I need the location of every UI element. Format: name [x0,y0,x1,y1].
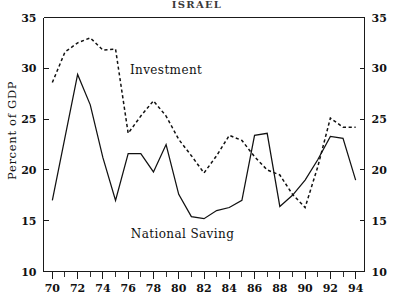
y-tick-label-left: 25 [21,113,36,126]
x-tick-label: 94 [348,282,364,295]
y-tick-label-right: 35 [372,12,387,25]
chart-container: ISRAEL 101520253035 101520253035 7072747… [0,0,394,299]
y-tick-label-right: 20 [372,164,388,177]
y-tick-label-left: 30 [21,62,37,75]
y-axis-title: Percent of GDP [5,81,19,180]
y-axis-left-labels: 101520253035 [21,12,37,279]
series-annotation: National Saving [131,227,234,241]
y-tick-label-right: 15 [372,215,387,228]
series-line-investment [52,38,355,208]
x-tick-label: 74 [95,282,111,295]
line-chart: ISRAEL 101520253035 101520253035 7072747… [0,0,394,299]
x-tick-label: 84 [222,282,238,295]
x-tick-label: 72 [70,282,85,295]
y-tick-label-left: 10 [21,266,37,279]
y-axis-right-labels: 101520253035 [372,12,388,279]
x-tick-label: 90 [297,282,313,295]
series-annotation: Investment [130,63,202,77]
y-tick-label-right: 10 [372,266,388,279]
y-tick-label-right: 30 [372,62,388,75]
y-axis-right-ticks [360,18,365,272]
x-tick-label: 82 [196,282,211,295]
x-tick-label: 76 [121,282,137,295]
x-tick-label: 92 [323,282,338,295]
x-axis-major-ticks [52,272,355,279]
series-group [52,38,355,219]
y-axis-left-ticks [44,18,49,272]
series-line-national-saving [52,74,355,218]
x-tick-label: 86 [247,282,263,295]
x-tick-label: 80 [171,282,187,295]
x-tick-label: 88 [272,282,288,295]
y-tick-label-right: 25 [372,113,387,126]
y-tick-label-left: 35 [21,12,36,25]
y-tick-label-left: 20 [21,164,37,177]
x-tick-label: 78 [146,282,162,295]
x-tick-label: 70 [45,282,61,295]
chart-title: ISRAEL [172,0,222,10]
x-axis-labels: 70727476788082848688909294 [45,282,364,295]
y-tick-label-left: 15 [21,215,36,228]
